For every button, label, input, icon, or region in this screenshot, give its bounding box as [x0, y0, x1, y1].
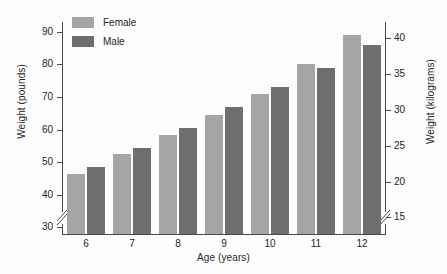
legend-item-male[interactable]: Male: [72, 33, 136, 49]
y-axis-right-tick-mark: [386, 74, 391, 75]
bar-male-age-8[interactable]: [179, 128, 197, 234]
y-axis-right-tick-mark: [386, 182, 391, 183]
bar-male-age-6[interactable]: [87, 167, 105, 234]
bar-group: [113, 22, 151, 234]
x-axis-tick-label-11: 11: [301, 238, 331, 249]
x-axis-tick-label-9: 9: [209, 238, 239, 249]
y-axis-left-tick-mark: [57, 195, 62, 196]
y-axis-left-tick-mark: [57, 64, 62, 65]
bar-group: [205, 22, 243, 234]
x-axis-tick-label-12: 12: [347, 238, 377, 249]
y-axis-left-tick-label: 70: [31, 91, 53, 102]
bar-female-age-6[interactable]: [67, 174, 85, 234]
x-axis-tick-label-8: 8: [163, 238, 193, 249]
y-axis-right-tick-mark: [386, 146, 391, 147]
bar-female-age-9[interactable]: [205, 115, 223, 234]
y-axis-left-tick-label: 90: [31, 26, 53, 37]
bar-female-age-11[interactable]: [297, 64, 315, 234]
x-axis-title: Age (years): [0, 252, 447, 263]
y-axis-right-tick-label: 40: [394, 32, 416, 43]
bar-group: [67, 22, 105, 234]
y-axis-right-title: Weight (kilograms): [425, 37, 436, 167]
bar-male-age-9[interactable]: [225, 107, 243, 234]
y-axis-left-tick-label: 40: [31, 189, 53, 200]
y-axis-right-tick-label: 35: [394, 68, 416, 79]
y-axis-right-spine: [385, 22, 386, 212]
y-axis-left-tick-mark: [57, 227, 62, 228]
bar-female-age-8[interactable]: [159, 135, 177, 234]
y-axis-right-tick-mark: [386, 110, 391, 111]
legend-item-female[interactable]: Female: [72, 14, 136, 30]
y-axis-left-tick-mark: [57, 32, 62, 33]
bar-male-age-10[interactable]: [271, 87, 289, 234]
y-axis-left-title: Weight (pounds): [16, 37, 27, 167]
bar-group: [251, 22, 289, 234]
x-axis-tick-label-7: 7: [117, 238, 147, 249]
y-axis-left-tick-label: 30: [31, 221, 53, 232]
chart-figure: Weight (pounds) Weight (kilograms) Age (…: [0, 0, 447, 274]
y-axis-left-tick-mark: [57, 162, 62, 163]
x-axis-tick-label-6: 6: [71, 238, 101, 249]
y-axis-left-tick-label: 80: [31, 58, 53, 69]
legend-swatch-female-icon: [72, 17, 94, 28]
y-axis-right-tick-label: 20: [394, 176, 416, 187]
bar-group: [297, 22, 335, 234]
y-axis-left-tick-label: 50: [31, 156, 53, 167]
bar-group: [343, 22, 381, 234]
y-axis-right-tick-label: 30: [394, 104, 416, 115]
y-axis-right-tick-mark: [386, 38, 391, 39]
y-axis-right-tick-label: 15: [394, 211, 416, 222]
x-axis-spine: [62, 234, 386, 235]
y-axis-left-tick-label: 60: [31, 124, 53, 135]
bar-female-age-10[interactable]: [251, 94, 269, 234]
bar-male-age-11[interactable]: [317, 68, 335, 234]
bar-male-age-7[interactable]: [133, 148, 151, 234]
legend-label-female: Female: [103, 17, 136, 28]
x-axis-tick-label-10: 10: [255, 238, 285, 249]
plot-area: [63, 22, 385, 234]
bar-female-age-7[interactable]: [113, 154, 131, 234]
legend-label-male: Male: [103, 36, 125, 47]
bar-group: [159, 22, 197, 234]
y-axis-left-tick-mark: [57, 97, 62, 98]
bar-male-age-12[interactable]: [363, 45, 381, 234]
y-axis-right-tick-mark: [386, 217, 391, 218]
legend-swatch-male-icon: [72, 36, 94, 47]
bar-female-age-12[interactable]: [343, 35, 361, 234]
y-axis-left-tick-mark: [57, 130, 62, 131]
chart-legend: Female Male: [72, 14, 136, 52]
y-axis-right-tick-label: 25: [394, 140, 416, 151]
